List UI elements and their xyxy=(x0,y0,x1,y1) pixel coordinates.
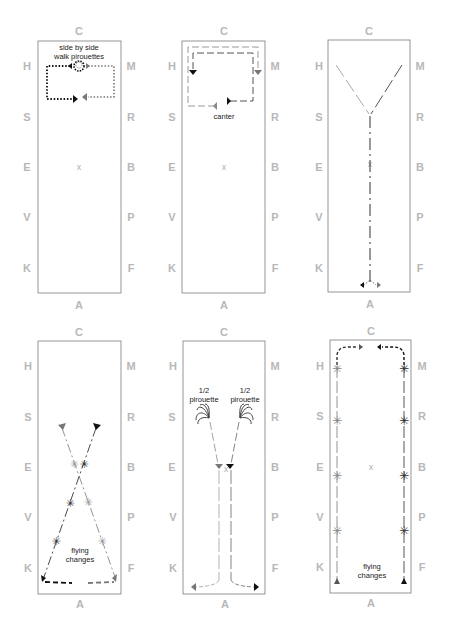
marker-v: V xyxy=(169,511,177,523)
marker-b: B xyxy=(127,161,135,173)
arena-3: C A H S E V K M R B P F x xyxy=(315,25,425,310)
marker-m: M xyxy=(415,60,424,72)
label-flying: flying xyxy=(71,546,89,555)
marker-f: F xyxy=(272,262,279,274)
marker-a: A xyxy=(367,597,375,609)
flying-change-icon: ✳ xyxy=(65,497,74,510)
marker-k: K xyxy=(24,562,32,574)
half-pirouette-path xyxy=(191,422,259,591)
label-flying: flying xyxy=(363,562,381,571)
marker-c: C xyxy=(220,25,228,37)
marker-f: F xyxy=(128,262,135,274)
marker-r: R xyxy=(271,111,279,123)
center-x: x xyxy=(77,162,82,172)
flying-change-icon: ✳ xyxy=(399,362,409,376)
marker-r: R xyxy=(127,111,135,123)
marker-h: H xyxy=(315,60,323,72)
flying-change-icon: ✳ xyxy=(332,524,342,538)
flying-change-icon: ✳ xyxy=(332,414,342,428)
flying-change-icon: ✳ xyxy=(79,458,88,471)
flying-change-icon: ✳ xyxy=(69,458,78,471)
marker-r: R xyxy=(271,411,279,423)
label-walk-pirouettes: walk pirouettes xyxy=(53,52,104,61)
marker-s: S xyxy=(315,111,322,123)
marker-m: M xyxy=(126,60,135,72)
label-half: 1/2 xyxy=(240,386,250,395)
marker-e: E xyxy=(23,161,30,173)
center-x: x xyxy=(369,462,374,472)
label-half: 1/2 xyxy=(199,386,209,395)
pirouette-icon xyxy=(240,404,253,424)
marker-a: A xyxy=(76,598,84,610)
marker-e: E xyxy=(168,461,175,473)
marker-m: M xyxy=(270,60,279,72)
marker-v: V xyxy=(315,211,323,223)
center-x: x xyxy=(222,162,227,172)
marker-b: B xyxy=(271,461,279,473)
arena-6: C A H S E V K M R B P F x flying changes… xyxy=(316,325,427,609)
label-changes: changes xyxy=(66,555,95,564)
marker-p: P xyxy=(127,511,134,523)
marker-k: K xyxy=(168,262,176,274)
label-side-by-side: side by side xyxy=(59,43,99,52)
flying-change-icon: ✳ xyxy=(399,414,409,428)
marker-s: S xyxy=(316,410,323,422)
marker-k: K xyxy=(23,262,31,274)
marker-e: E xyxy=(316,461,323,473)
marker-p: P xyxy=(127,211,134,223)
marker-s: S xyxy=(168,411,175,423)
flying-change-icon: ✳ xyxy=(399,524,409,538)
pirouette-icon xyxy=(68,61,90,71)
marker-v: V xyxy=(168,211,176,223)
marker-a: A xyxy=(366,298,374,310)
marker-v: V xyxy=(24,511,32,523)
flying-change-icons: ✳ ✳ ✳ ✳ ✳ ✳ ✳ ✳ xyxy=(332,362,409,538)
marker-f: F xyxy=(419,561,426,573)
label-pirouette: pirouette xyxy=(230,395,259,404)
marker-h: H xyxy=(168,60,176,72)
flying-change-icons: ✳ ✳ ✳ ✳ ✳ ✳ xyxy=(51,458,106,548)
label-canter: canter xyxy=(214,112,235,121)
marker-m: M xyxy=(270,360,279,372)
marker-v: V xyxy=(316,511,324,523)
marker-b: B xyxy=(127,461,135,473)
marker-s: S xyxy=(168,111,175,123)
marker-h: H xyxy=(316,360,324,372)
pirouette-icon xyxy=(196,404,209,424)
marker-a: A xyxy=(220,299,228,311)
marker-f: F xyxy=(128,562,135,574)
flying-change-icon: ✳ xyxy=(332,362,342,376)
marker-e: E xyxy=(24,461,31,473)
marker-b: B xyxy=(418,461,426,473)
marker-m: M xyxy=(126,360,135,372)
marker-r: R xyxy=(127,411,135,423)
arena-4: C A H S E V K M R B P F flying changes ✳… xyxy=(24,326,136,610)
marker-s: S xyxy=(24,411,31,423)
marker-p: P xyxy=(271,511,278,523)
marker-b: B xyxy=(416,161,424,173)
marker-r: R xyxy=(418,410,426,422)
marker-c: C xyxy=(367,325,375,337)
marker-r: R xyxy=(416,111,424,123)
canter-path xyxy=(188,47,262,110)
marker-h: H xyxy=(23,60,31,72)
marker-f: F xyxy=(417,262,424,274)
flying-change-icon: ✳ xyxy=(332,469,342,483)
flying-change-icon: ✳ xyxy=(399,469,409,483)
y-path xyxy=(336,65,402,288)
marker-s: S xyxy=(23,111,30,123)
dressage-diagrams: C A H S E V K M R B P F x side by side w… xyxy=(0,0,449,633)
marker-k: K xyxy=(315,262,323,274)
marker-p: P xyxy=(271,211,278,223)
walk-path xyxy=(47,61,114,103)
marker-h: H xyxy=(24,360,32,372)
marker-a: A xyxy=(75,299,83,311)
marker-c: C xyxy=(75,326,83,338)
flying-change-icon: ✳ xyxy=(97,535,106,548)
marker-e: E xyxy=(168,161,175,173)
marker-e: E xyxy=(315,161,322,173)
marker-h: H xyxy=(169,360,177,372)
marker-m: M xyxy=(417,360,426,372)
arena-2: C A H S E V K M R B P F x canter xyxy=(168,25,280,311)
marker-p: P xyxy=(418,511,425,523)
